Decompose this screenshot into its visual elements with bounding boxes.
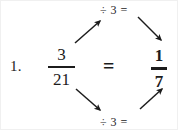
arrow-upper-right [138,17,161,40]
worksheet-problem: 1. 3 21 = 1 7 ÷ 3 = ÷ 3 = [0,0,178,130]
problem-number: 1. [10,58,22,75]
equals-sign: = [103,56,114,76]
fraction-bar [151,67,167,70]
arrow-lower-right [140,89,162,109]
fraction-numerator: 3 [57,46,66,64]
fraction-denominator: 21 [53,70,70,88]
fraction-three-twentyfirsts: 3 21 [48,46,75,88]
divide-label-bottom: ÷ 3 = [100,116,128,128]
fraction-denominator: 7 [155,72,164,90]
fraction-one-seventh: 1 7 [151,47,167,90]
arrow-upper-left [75,21,100,43]
fraction-bar [48,66,75,68]
fraction-numerator: 1 [155,47,164,65]
divide-label-top: ÷ 3 = [100,4,128,16]
arrow-lower-left [76,89,100,110]
